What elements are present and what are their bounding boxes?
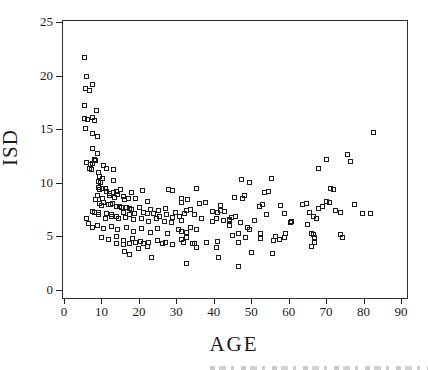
- x-axis-tick-label: 10: [86, 304, 116, 320]
- data-point-marker: [104, 166, 109, 171]
- data-point-marker: [184, 261, 189, 266]
- data-point-marker: [145, 244, 150, 249]
- data-point-marker: [227, 223, 232, 228]
- data-point-marker: [133, 240, 138, 245]
- scatter-plot-figure: ISD 01020304050607080900510152025 AGE: [0, 0, 428, 370]
- data-point-marker: [129, 190, 134, 195]
- data-point-marker: [345, 152, 350, 157]
- data-point-marker: [121, 242, 126, 247]
- data-point-marker: [270, 251, 275, 256]
- data-point-marker: [264, 212, 269, 217]
- data-point-marker: [352, 202, 357, 207]
- cropped-caption-fragment: [210, 366, 428, 370]
- data-point-marker: [145, 199, 150, 204]
- data-point-marker: [82, 103, 87, 108]
- data-point-marker: [116, 216, 121, 221]
- y-axis-tick-label: 10: [29, 175, 53, 191]
- x-axis-tick-label: 40: [199, 304, 229, 320]
- data-point-marker: [132, 211, 137, 216]
- data-point-marker: [139, 226, 144, 231]
- data-point-marker: [179, 218, 184, 223]
- y-axis-tick-label: 0: [29, 282, 53, 298]
- data-point-marker: [233, 214, 238, 219]
- data-point-marker: [96, 212, 101, 217]
- data-point-marker: [194, 186, 199, 191]
- data-point-marker: [169, 220, 174, 225]
- data-point-marker: [331, 187, 336, 192]
- data-point-marker: [95, 223, 100, 228]
- x-axis-tick-label: 50: [236, 304, 266, 320]
- data-point-marker: [338, 210, 343, 215]
- data-point-marker: [93, 158, 98, 163]
- data-point-marker: [239, 177, 244, 182]
- data-point-marker: [215, 239, 220, 244]
- data-point-marker: [179, 200, 184, 205]
- data-point-marker: [252, 218, 257, 223]
- data-point-marker: [111, 178, 116, 183]
- data-point-marker: [127, 252, 132, 257]
- data-point-marker: [118, 187, 123, 192]
- data-point-marker: [249, 250, 254, 255]
- data-point-marker: [188, 225, 193, 230]
- data-point-marker: [214, 245, 219, 250]
- data-point-marker: [368, 211, 373, 216]
- data-point-marker: [184, 230, 189, 235]
- data-point-marker: [197, 201, 202, 206]
- data-point-marker: [154, 216, 159, 221]
- data-point-marker: [221, 218, 226, 223]
- data-point-marker: [278, 203, 283, 208]
- data-point-marker: [271, 238, 276, 243]
- x-axis-tick-label: 30: [161, 304, 191, 320]
- data-point-marker: [170, 242, 175, 247]
- data-point-marker: [184, 235, 189, 240]
- data-point-marker: [162, 219, 167, 224]
- data-point-marker: [94, 108, 99, 113]
- data-point-marker: [312, 235, 317, 240]
- data-point-marker: [185, 197, 190, 202]
- data-point-marker: [203, 200, 208, 205]
- data-point-marker: [137, 205, 142, 210]
- data-point-marker: [199, 216, 204, 221]
- data-point-marker: [312, 240, 317, 245]
- data-point-marker: [148, 230, 153, 235]
- x-axis-tick-label: 60: [274, 304, 304, 320]
- data-point-marker: [232, 195, 237, 200]
- data-point-marker: [266, 189, 271, 194]
- data-point-marker: [123, 215, 128, 220]
- y-axis-tick-mark: [56, 22, 62, 23]
- data-point-marker: [288, 220, 293, 225]
- data-point-marker: [247, 180, 252, 185]
- data-point-marker: [127, 241, 132, 246]
- data-point-marker: [316, 166, 321, 171]
- data-point-marker: [83, 126, 88, 131]
- data-point-marker: [282, 235, 287, 240]
- data-point-marker: [114, 234, 119, 239]
- data-point-marker: [109, 224, 114, 229]
- data-point-marker: [84, 74, 89, 79]
- data-point-marker: [90, 82, 95, 87]
- data-point-marker: [155, 226, 160, 231]
- y-axis-tick-label: 25: [29, 14, 53, 30]
- data-point-marker: [122, 197, 127, 202]
- data-point-marker: [87, 88, 92, 93]
- data-point-marker: [324, 157, 329, 162]
- data-point-marker: [218, 203, 223, 208]
- data-point-marker: [192, 212, 197, 217]
- data-point-marker: [194, 227, 199, 232]
- data-point-marker: [149, 255, 154, 260]
- x-axis-tick-label: 90: [386, 304, 416, 320]
- plot-area: 01020304050607080900510152025: [62, 20, 408, 299]
- data-point-marker: [282, 211, 287, 216]
- data-point-marker: [182, 211, 187, 216]
- x-axis-tick-label: 20: [124, 304, 154, 320]
- data-point-marker: [136, 246, 141, 251]
- y-axis-tick-label: 5: [29, 228, 53, 244]
- data-point-marker: [95, 134, 100, 139]
- data-point-marker: [127, 206, 132, 211]
- data-point-marker: [165, 231, 170, 236]
- data-point-marker: [146, 219, 151, 224]
- data-point-marker: [269, 176, 274, 181]
- data-point-marker: [327, 200, 332, 205]
- data-point-marker: [92, 118, 97, 123]
- data-point-marker: [194, 245, 199, 250]
